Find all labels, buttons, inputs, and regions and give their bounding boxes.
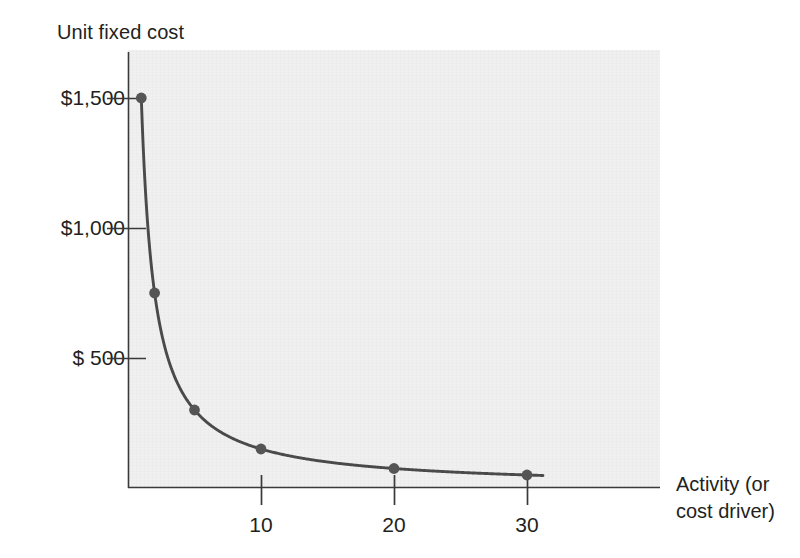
data-point-markers bbox=[136, 93, 532, 481]
cost-curve-line bbox=[141, 98, 543, 476]
x-tick-marks bbox=[262, 475, 528, 505]
y-tick-marks bbox=[107, 99, 146, 359]
data-point-2 bbox=[149, 288, 160, 299]
data-point-1 bbox=[136, 93, 147, 104]
data-point-20 bbox=[389, 463, 400, 474]
data-point-10 bbox=[256, 444, 267, 455]
chart-canvas bbox=[0, 0, 800, 558]
data-point-5 bbox=[189, 405, 200, 416]
chart-figure: Unit fixed cost Activity (or cost driver… bbox=[0, 0, 800, 558]
data-point-30 bbox=[522, 470, 533, 481]
